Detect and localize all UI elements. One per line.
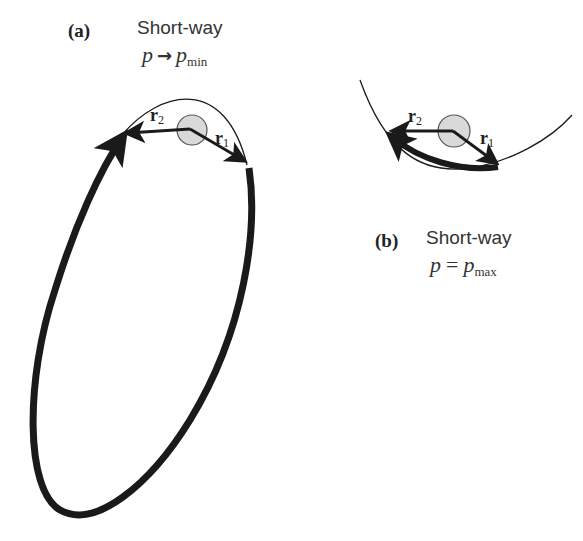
vector-label-r1-a: r1 xyxy=(215,128,229,151)
vector-label-r1-b: r1 xyxy=(480,128,494,151)
panel-a-title: Short-way xyxy=(137,17,223,39)
panel-b-label: (b) xyxy=(375,230,398,252)
eq-rhs: p xyxy=(176,42,187,67)
orbit-thick-path-a xyxy=(33,138,252,515)
vector-label-r2-a: r2 xyxy=(150,105,164,128)
eq-rhs-sub: min xyxy=(187,54,207,69)
panel-a-equation: p→pmin xyxy=(142,42,207,70)
panel-b-equation: p=pmax xyxy=(430,252,497,280)
eq-lhs: p xyxy=(142,42,153,67)
orbit-diagram: (a) Short-way p→pmin r2 r1 r2 r1 (b) Sho… xyxy=(0,0,583,541)
arrow-right-icon: → xyxy=(157,45,172,66)
panel-b-title: Short-way xyxy=(426,227,512,249)
panel-a-label: (a) xyxy=(68,20,90,42)
vector-label-r2-b: r2 xyxy=(408,106,422,129)
